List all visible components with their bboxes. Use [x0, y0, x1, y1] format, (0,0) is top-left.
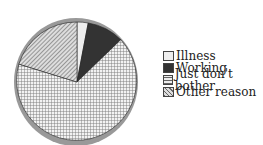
legend-item-other-reason: Other reason [163, 86, 263, 98]
pie-chart [0, 0, 150, 145]
legend: Illness Working Just don't bother Other … [163, 50, 263, 98]
